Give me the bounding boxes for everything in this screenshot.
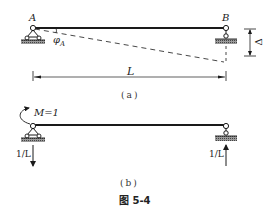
roller-support-b-icon	[215, 25, 237, 62]
rotation-subscript: A	[60, 40, 65, 48]
span-label: L	[127, 66, 134, 77]
rotation-symbol: φ	[53, 34, 60, 45]
moment-arrow-icon	[20, 108, 30, 124]
reaction-right-label: 1/L	[209, 150, 224, 159]
reaction-left-label: 1/L	[16, 150, 31, 159]
panel-a-caption: (a)	[121, 91, 139, 100]
pin-support-a-b-icon	[21, 123, 45, 142]
node-b-label: B	[222, 13, 229, 23]
rotation-label: φA	[53, 35, 65, 48]
node-a-label: A	[29, 13, 36, 23]
settlement-label: Δ	[254, 38, 264, 45]
moment-label: M=1	[34, 108, 59, 118]
rotation-arc	[56, 28, 57, 33]
figure-title: 图 5-4	[119, 196, 151, 206]
panel-b-caption: (b)	[120, 179, 139, 188]
